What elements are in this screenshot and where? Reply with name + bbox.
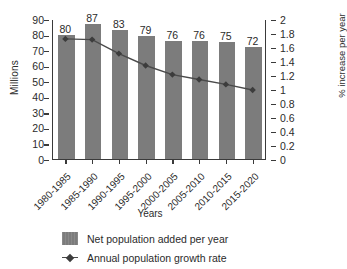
y-axis-right-tickmark: [271, 48, 276, 49]
legend-item: Annual population growth rate: [62, 248, 322, 267]
y-axis-right-tick-0.6: 0.6: [280, 113, 295, 124]
x-axis-tickmark: [253, 160, 254, 164]
growth-rate-marker: [169, 71, 175, 77]
x-axis-tickmark: [119, 160, 120, 164]
growth-rate-marker: [62, 36, 68, 42]
y-axis-right-tickmark: [271, 62, 276, 63]
bar-value-label: 76: [185, 29, 213, 41]
x-axis-tickmark: [226, 160, 227, 164]
x-axis-tickmark: [146, 160, 147, 164]
y-axis-right-tickmark: [271, 104, 276, 105]
y-axis-left-tickmark: [44, 160, 49, 161]
growth-rate-marker: [196, 76, 202, 82]
x-axis-tickmark: [199, 160, 200, 164]
x-axis-tickmark: [92, 160, 93, 164]
y-axis-right-tick-0.8: 0.8: [280, 99, 295, 110]
y-axis-right-tick-1: 1: [280, 85, 286, 96]
y-axis-left-tick-90: 90: [32, 15, 44, 26]
x-axis-title: Years: [0, 208, 300, 219]
y-axis-right-tick-0.2: 0.2: [280, 141, 295, 152]
y-axis-left-tickmark: [44, 20, 49, 21]
y-axis-right-tick-0.4: 0.4: [280, 127, 295, 138]
y-axis-right-tickmark: [271, 20, 276, 21]
y-axis-right-tick-0: 0: [280, 155, 286, 166]
y-axis-left-tick-10: 10: [32, 139, 44, 150]
y-axis-right-tick-1.6: 1.6: [280, 43, 295, 54]
y-axis-left-tick-80: 80: [32, 30, 44, 41]
bar-value-label: 87: [78, 12, 106, 24]
y-axis-right-tick-1.4: 1.4: [280, 57, 295, 68]
y-axis-left-tick-60: 60: [32, 61, 44, 72]
y-axis-left-tickmark: [44, 82, 49, 83]
legend-bar-swatch-icon: [62, 232, 78, 245]
legend-item: Net population added per year: [62, 229, 322, 248]
bar-value-label: 76: [158, 29, 186, 41]
y-axis-left-tick-50: 50: [32, 77, 44, 88]
legend-line-diamond-icon: [62, 251, 78, 264]
chart-legend: Net population added per yearAnnual popu…: [62, 229, 322, 267]
legend-label: Net population added per year: [87, 233, 228, 245]
y-axis-right-tick-1.8: 1.8: [280, 29, 295, 40]
y-axis-right-tickmark: [271, 76, 276, 77]
y-axis-right-tick-1.2: 1.2: [280, 71, 295, 82]
y-axis-title-right: % increase per year: [336, 0, 347, 116]
growth-rate-marker: [89, 36, 95, 42]
y-axis-left-tickmark: [44, 36, 49, 37]
growth-rate-marker: [116, 50, 122, 56]
bar-value-label: 80: [51, 23, 79, 35]
growth-rate-marker: [249, 87, 255, 93]
y-axis-left-tickmark: [44, 51, 49, 52]
y-axis-right-tickmark: [271, 146, 276, 147]
y-axis-right-tickmark: [271, 90, 276, 91]
y-axis-left-tickmark: [44, 144, 49, 145]
y-axis-right-tickmark: [271, 118, 276, 119]
bar-value-label: 72: [239, 35, 267, 47]
growth-rate-marker: [142, 62, 148, 68]
y-axis-left-tick-40: 40: [32, 92, 44, 103]
y-axis-left-tick-30: 30: [32, 108, 44, 119]
y-axis-left-tickmark: [44, 129, 49, 130]
growth-rate-marker: [223, 81, 229, 87]
y-axis-left-tickmark: [44, 113, 49, 114]
y-axis-left-tickmark: [44, 67, 49, 68]
growth-rate-line: [65, 39, 252, 90]
y-axis-left-ticks: 0102030405060708090: [16, 0, 44, 269]
y-axis-right-tickmark: [271, 160, 276, 161]
y-axis-right-tickmark: [271, 132, 276, 133]
y-axis-left-tickmark: [44, 98, 49, 99]
y-axis-right-tick-2: 2: [280, 15, 286, 26]
bar-value-label: 79: [132, 24, 160, 36]
y-axis-right-tickmark: [271, 34, 276, 35]
y-axis-left-tick-70: 70: [32, 46, 44, 57]
bar-value-label: 75: [212, 30, 240, 42]
y-axis-left-tick-20: 20: [32, 123, 44, 134]
x-axis-tickmark: [172, 160, 173, 164]
legend-label: Annual population growth rate: [87, 252, 227, 264]
bar-value-label: 83: [105, 18, 133, 30]
x-axis-tickmark: [65, 160, 66, 164]
